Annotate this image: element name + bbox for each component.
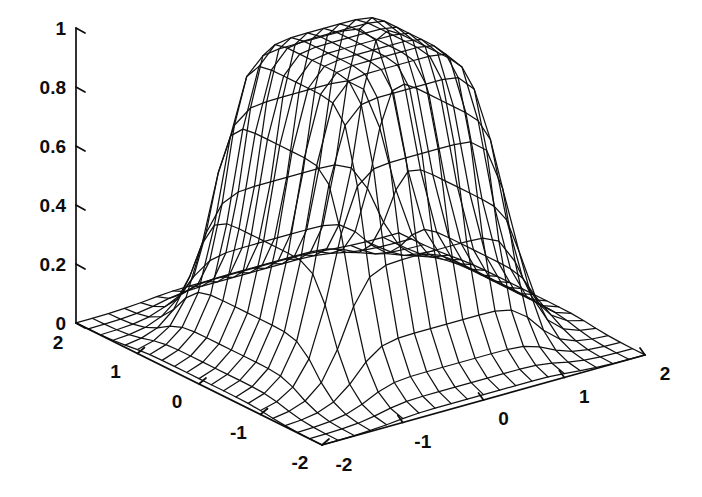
x-axis-tick-label: -2 <box>336 454 353 475</box>
y-axis-tick-label: 0 <box>172 391 183 412</box>
mesh-line-constant-x <box>318 84 564 373</box>
mesh-line-constant-y <box>273 238 596 418</box>
mesh-line-constant-x <box>124 292 370 430</box>
mesh-line-constant-x <box>334 170 580 371</box>
z-axis-tick-label: 0 <box>55 313 66 334</box>
mesh-line-constant-x <box>286 18 532 382</box>
y-axis-tick-label: 2 <box>53 332 64 353</box>
axis-tick-labels: 10.80.60.40.20210-1-2-2-1012 <box>40 18 671 475</box>
mesh-line-constant-y <box>138 81 461 350</box>
mesh-line-constant-y <box>76 233 399 323</box>
mesh-plot-figure: 10.80.60.40.20210-1-2-2-1012 <box>0 0 702 497</box>
z-axis-tick <box>76 205 85 210</box>
z-axis-tick-label: 0.8 <box>40 77 66 98</box>
z-axis-tick-label: 0.6 <box>40 136 66 157</box>
mesh-line-constant-y <box>297 342 620 432</box>
y-axis-tick-label: -2 <box>292 452 309 473</box>
z-axis-tick-label: 1 <box>55 18 66 39</box>
surface-plot-canvas: 10.80.60.40.20210-1-2-2-1012 <box>0 0 702 497</box>
x-axis-tick-label: 1 <box>579 386 590 407</box>
x-axis-tick-label: 0 <box>498 408 509 429</box>
z-axis-tick <box>76 87 85 92</box>
mesh-line-constant-x <box>92 318 338 440</box>
surface-mesh-wireframe <box>76 18 645 445</box>
mesh-line-constant-y <box>248 78 571 404</box>
z-axis-tick-label: 0.4 <box>40 195 67 216</box>
z-axis-tick <box>76 323 85 328</box>
y-axis-tick-label: -1 <box>230 422 247 443</box>
y-axis-tick-label: 1 <box>110 361 121 382</box>
x-axis-tick-label: 2 <box>660 363 671 384</box>
mesh-line-constant-y <box>101 245 424 335</box>
mesh-line-constant-x <box>270 20 516 386</box>
mesh-line-constant-x <box>367 242 613 364</box>
z-axis-tick <box>76 28 85 33</box>
x-axis-tick-label: -1 <box>414 431 431 452</box>
z-axis-tick <box>76 264 85 269</box>
z-axis-tick-label: 0.2 <box>40 254 66 275</box>
z-axis-tick <box>76 146 85 151</box>
